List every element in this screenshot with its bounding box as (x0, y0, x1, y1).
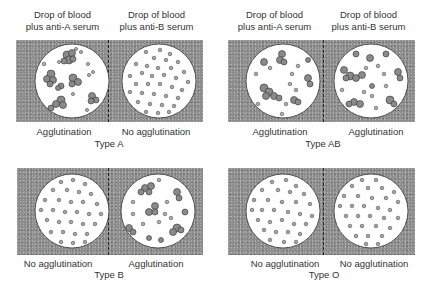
header-line-1: Drop of blood (110, 9, 203, 21)
header-line-1: Drop of blood (16, 9, 109, 21)
header-anti-b: Drop of blood plus anti-B serum (110, 9, 203, 33)
blood-drop-agglutinated (33, 42, 111, 120)
result-right: No agglutination (324, 258, 424, 269)
slide-panel (17, 168, 203, 255)
header-line-2: plus anti-A serum (228, 21, 321, 33)
type-b-group: No agglutination Agglutination Type B (0, 150, 213, 295)
slide-panel (228, 40, 415, 122)
result-left: Agglutination (230, 126, 330, 137)
blood-drop-normal (33, 172, 111, 250)
divider-line (323, 40, 324, 122)
header-line-2: plus anti-A serum (16, 21, 109, 33)
header-line-2: plus anti-B serum (322, 21, 415, 33)
blood-drop-normal (244, 172, 322, 250)
result-left: Agglutination (14, 126, 114, 137)
type-label: Type AB (273, 138, 373, 149)
blood-drop-agglutinated (244, 42, 322, 120)
type-o-group: No agglutination No agglutination Type O (213, 150, 427, 295)
header-line-2: plus anti-B serum (110, 21, 203, 33)
blood-drop-agglutinated (332, 42, 410, 120)
type-label: Type O (274, 269, 374, 280)
header-anti-a: Drop of blood plus anti-A serum (16, 9, 109, 33)
header-anti-a: Drop of blood plus anti-A serum (228, 9, 321, 33)
blood-drop-normal (120, 42, 198, 120)
slide-panel (16, 40, 203, 122)
result-left: No agglutination (8, 258, 108, 269)
result-right: Agglutination (326, 126, 426, 137)
blood-drop-normal (332, 172, 410, 250)
type-a-group: Drop of blood plus anti-A serum Drop of … (0, 0, 213, 150)
result-right: No agglutination (106, 126, 206, 137)
result-right: Agglutination (106, 258, 206, 269)
header-line-1: Drop of blood (228, 9, 321, 21)
header-line-1: Drop of blood (322, 9, 415, 21)
type-label: Type B (59, 269, 159, 280)
slide-panel (228, 168, 415, 255)
result-left: No agglutination (235, 258, 335, 269)
divider-line (323, 168, 324, 255)
type-ab-group: Drop of blood plus anti-A serum Drop of … (213, 0, 427, 150)
type-label: Type A (59, 138, 159, 149)
header-anti-b: Drop of blood plus anti-B serum (322, 9, 415, 33)
blood-drop-agglutinated (119, 172, 197, 250)
